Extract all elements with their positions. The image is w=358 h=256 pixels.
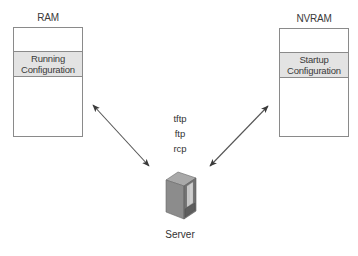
protocol-tftp: tftp [160, 113, 200, 124]
server-label: Server [150, 229, 210, 240]
nvram-server-arrow [210, 106, 268, 166]
server-tower-icon [166, 172, 196, 219]
ram-server-arrow [93, 105, 149, 166]
protocol-rcp: rcp [160, 143, 200, 154]
protocol-ftp: ftp [160, 128, 200, 139]
